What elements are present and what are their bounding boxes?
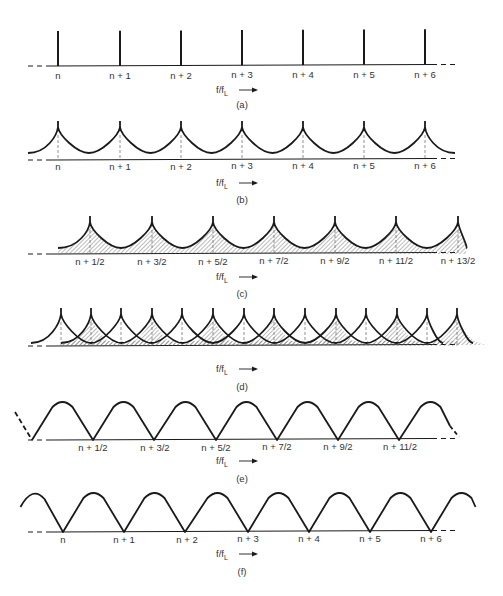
- axis-label-f-over-fL: f/fL: [216, 548, 228, 561]
- panel-caption: (a): [236, 99, 248, 110]
- panel-e: n + 1/2n + 3/2n + 5/2n + 7/2n + 9/2n + 1…: [15, 402, 459, 484]
- tick-label: n + 9/2: [323, 441, 352, 452]
- panel-caption: (f): [238, 566, 247, 577]
- tick-label: n + 3: [237, 533, 258, 544]
- tick-label: n + 4: [298, 533, 319, 544]
- tick-label: n + 11/2: [379, 255, 413, 266]
- figure-canvas: nn + 1n + 2n + 3n + 4n + 5n + 6f/fL(a)nn…: [0, 0, 503, 596]
- panel-f: nn + 1n + 2n + 3n + 4n + 5n + 6f/fL(f): [21, 493, 476, 577]
- tick-label: n + 1/2: [75, 256, 104, 267]
- tick-label: n + 3: [231, 69, 252, 80]
- panel-d: f/fL(d): [28, 308, 489, 392]
- tick-label: n + 4: [292, 69, 313, 80]
- arch-spectrum-curve: [32, 402, 450, 440]
- tick-label: n + 5: [353, 160, 374, 171]
- axis-label-f-over-fL: f/fL: [216, 455, 228, 468]
- tick-label: n + 1: [113, 534, 134, 545]
- tick-label: n: [55, 161, 60, 172]
- tick-label: n + 5/2: [201, 442, 230, 453]
- panel-b: nn + 1n + 2n + 3n + 4n + 5n + 6f/fL(b): [28, 121, 458, 205]
- tick-label: n + 1/2: [78, 442, 107, 453]
- tick-label: n + 1: [109, 70, 130, 81]
- tick-label: n + 5/2: [198, 256, 227, 267]
- frequency-spectra-figure: nn + 1n + 2n + 3n + 4n + 5n + 6f/fL(a)nn…: [0, 0, 503, 596]
- panel-a: nn + 1n + 2n + 3n + 4n + 5n + 6f/fL(a): [28, 29, 458, 110]
- arrow-right-icon: [252, 459, 258, 464]
- tick-label: n + 13/2: [441, 255, 476, 266]
- tick-label: n + 7/2: [259, 255, 288, 266]
- tick-label: n + 1: [109, 161, 130, 172]
- tick-label: n + 11/2: [383, 441, 417, 452]
- tick-label: n + 5: [359, 533, 380, 544]
- arrow-right-icon: [252, 552, 258, 557]
- tick-label: n + 6: [414, 160, 435, 171]
- tick-label: n + 9/2: [320, 255, 349, 266]
- tick-label: n: [55, 70, 60, 81]
- arrow-right-icon: [252, 367, 258, 372]
- tick-label: n: [60, 534, 65, 545]
- tick-label: n + 6: [420, 533, 441, 544]
- tick-label: n + 2: [170, 70, 191, 81]
- panel-caption: (e): [236, 473, 248, 484]
- tick-label: n + 2: [170, 161, 191, 172]
- tick-label: n + 6: [414, 69, 435, 80]
- panel-caption: (b): [236, 194, 248, 205]
- tick-label: n + 5: [353, 69, 374, 80]
- arch-extension-left: [15, 412, 32, 440]
- cusp-spectrum-curve: [28, 121, 455, 153]
- arrow-right-icon: [252, 88, 258, 93]
- axis-label-f-over-fL: f/fL: [216, 177, 228, 190]
- tick-label: n + 3: [231, 160, 252, 171]
- arch-extension-right: [450, 426, 459, 437]
- panel-c: n + 1/2n + 3/2n + 5/2n + 7/2n + 9/2n + 1…: [28, 216, 475, 299]
- tick-label: n + 3/2: [137, 256, 166, 267]
- baseline: [50, 439, 432, 441]
- tick-label: n + 3/2: [140, 442, 169, 453]
- tick-label: n + 4: [292, 160, 313, 171]
- tick-label: n + 2: [176, 534, 197, 545]
- axis-label-f-over-fL: f/fL: [216, 363, 228, 376]
- panel-caption: (c): [236, 288, 247, 299]
- arch-spectrum-curve: [21, 493, 476, 532]
- axis-label-f-over-fL: f/fL: [216, 84, 228, 97]
- arrow-right-icon: [252, 275, 258, 280]
- tick-label: n + 7/2: [262, 441, 291, 452]
- arrow-right-icon: [252, 181, 258, 186]
- axis-label-f-over-fL: f/fL: [216, 271, 228, 284]
- panel-caption: (d): [236, 381, 248, 392]
